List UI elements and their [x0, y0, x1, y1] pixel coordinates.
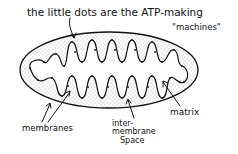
- intermembrane-label-line3: Space: [112, 137, 156, 145]
- matrix-label: matrix: [170, 108, 199, 117]
- atp-dots-label: the little dots are the ATP-making: [27, 7, 203, 18]
- membranes-label: membranes: [22, 124, 73, 133]
- atp-dots-label-machines: "machines": [172, 23, 221, 32]
- intermembrane-space-label: inter- membrane Space: [112, 120, 156, 145]
- membranes-arrow-outer: [42, 104, 50, 122]
